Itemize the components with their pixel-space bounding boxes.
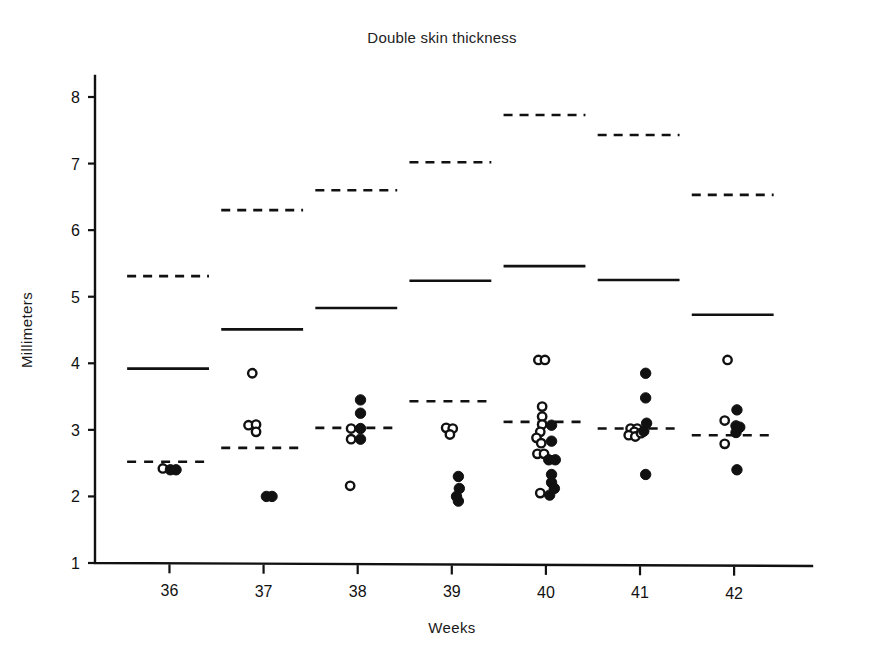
data-point-open [538,402,546,410]
y-axis-label: Millimeters [18,292,35,368]
y-tick-label: 2 [71,488,80,505]
data-point-filled [546,420,556,430]
y-tick-label: 4 [71,355,80,372]
data-point-open [721,416,729,424]
y-axis-ticks: 12345678 [71,89,95,572]
reference-lines [127,115,774,462]
y-tick-label: 5 [71,289,80,306]
y-tick-label: 1 [71,555,80,572]
x-tick-label: 39 [443,583,461,600]
data-point-open [346,482,354,490]
data-point-filled [640,469,650,479]
x-axis-ticks: 36373839404142 [161,564,744,601]
data-point-filled [639,426,649,436]
data-point-filled [171,465,181,475]
data-point-filled [453,496,463,506]
data-point-open [252,428,260,436]
data-point-open [541,356,549,364]
page-bottom-margin [0,648,884,662]
y-tick-label: 7 [71,156,80,173]
data-point-filled [732,465,742,475]
chart-title: Double skin thickness [367,29,516,46]
data-point-open [248,369,256,377]
y-tick-label: 6 [71,222,80,239]
x-tick-label: 37 [255,583,273,600]
data-point-filled [544,490,554,500]
data-point-filled [550,455,560,465]
data-point-open [446,430,454,438]
data-point-filled [640,393,650,403]
data-point-open [537,439,545,447]
x-axis-label: Weeks [428,619,476,636]
data-point-filled [355,408,365,418]
skin-thickness-scatter-chart: Double skin thickness Millimeters Weeks … [0,0,884,662]
data-point-filled [355,395,365,405]
data-point-filled [546,436,556,446]
x-tick-label: 40 [537,584,555,601]
data-point-open [536,489,544,497]
data-point-filled [355,434,365,444]
data-point-filled [732,405,742,415]
data-point-filled [731,427,741,437]
data-point-open [347,424,355,432]
x-tick-label: 38 [349,583,367,600]
y-tick-label: 3 [71,422,80,439]
x-tick-label: 42 [725,585,743,602]
data-point-open [723,356,731,364]
data-point-filled [453,471,463,481]
data-point-open [721,440,729,448]
data-point-open [347,435,355,443]
figure-page: Double skin thickness Millimeters Weeks … [0,0,884,662]
data-point-filled [355,423,365,433]
data-point-filled [267,491,277,501]
data-points [159,356,745,507]
data-point-filled [640,368,650,378]
x-tick-label: 36 [161,582,179,599]
x-tick-label: 41 [631,584,649,601]
y-tick-label: 8 [71,89,80,106]
